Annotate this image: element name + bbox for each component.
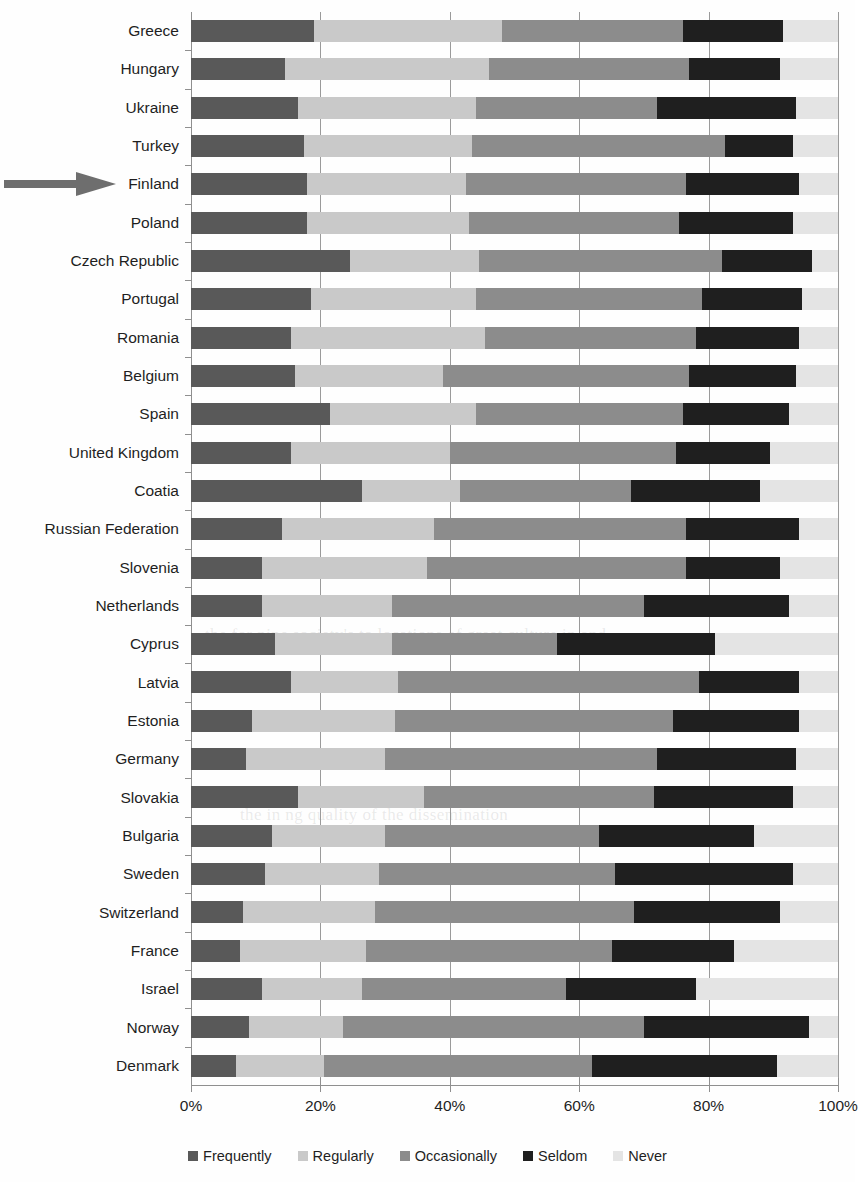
bar-segment-never [715,633,838,655]
bar-segment-regularly [240,940,366,962]
bar-segment-frequently [191,786,298,808]
stacked-bar [191,557,838,579]
bar-segment-never [770,442,838,464]
legend-item[interactable]: Never [613,1148,667,1164]
bar-segment-occasionally [343,1016,644,1038]
bar-segment-seldom [683,403,790,425]
x-axis-tick [579,1078,580,1092]
x-axis-tick-label: 60% [564,1097,595,1115]
stacked-bar [191,940,838,962]
stacked-bar [191,20,838,42]
bar-row [191,817,838,855]
bar-segment-seldom [725,135,793,157]
bar-segment-seldom [683,20,783,42]
bar-segment-occasionally [466,173,686,195]
legend-item[interactable]: Seldom [523,1148,587,1164]
y-axis-tick [185,855,191,856]
y-axis-label: Poland [131,215,179,231]
bar-segment-occasionally [479,250,722,272]
x-axis-tick-label: 20% [305,1097,336,1115]
y-axis-label: Estonia [127,713,179,729]
bar-segment-regularly [307,212,469,234]
y-axis-tick [185,434,191,435]
bar-row [191,12,838,50]
stacked-bar [191,365,838,387]
bar-segment-occasionally [472,135,724,157]
bar-segment-frequently [191,518,282,540]
y-axis-label: Coatia [134,483,179,499]
y-axis-tick [185,280,191,281]
y-axis-label: United Kingdom [69,445,179,461]
y-axis-tick [185,89,191,90]
bar-segment-seldom [686,173,799,195]
bar-segment-regularly [236,1055,323,1077]
bar-segment-occasionally [385,748,657,770]
bar-segment-regularly [275,633,391,655]
legend-swatch-icon [523,1151,533,1161]
bar-segment-frequently [191,480,362,502]
legend-item[interactable]: Frequently [188,1148,272,1164]
bar-row [191,280,838,318]
bar-segment-occasionally [398,671,699,693]
bar-row [191,855,838,893]
bar-segment-frequently [191,288,311,310]
bar-segment-occasionally [392,595,644,617]
bar-segment-frequently [191,403,330,425]
bar-row [191,89,838,127]
y-axis-label: Israel [141,981,179,997]
bar-segment-never [799,710,838,732]
bar-segment-regularly [262,557,427,579]
bar-segment-seldom [657,748,796,770]
bar-segment-regularly [291,327,485,349]
bar-segment-never [793,786,838,808]
bar-segment-never [783,20,838,42]
bar-segment-frequently [191,557,262,579]
y-axis-tick [185,549,191,550]
bar-row [191,510,838,548]
bar-segment-seldom [699,671,799,693]
bar-segment-never [799,173,838,195]
bar-segment-frequently [191,365,295,387]
y-axis-label: Sweden [123,866,179,882]
y-axis-tick [185,1047,191,1048]
stacked-bar [191,250,838,272]
bar-segment-regularly [291,442,450,464]
y-axis-tick [185,970,191,971]
y-axis-tick [185,395,191,396]
bar-row [191,1008,838,1046]
bar-segment-regularly [362,480,459,502]
bar-segment-regularly [246,748,385,770]
y-axis-tick [185,625,191,626]
stacked-bar [191,901,838,923]
bar-segment-occasionally [324,1055,593,1077]
bar-segment-seldom [722,250,813,272]
bar-segment-frequently [191,97,298,119]
bar-segment-regularly [265,863,378,885]
bar-segment-regularly [295,365,444,387]
legend-item[interactable]: Occasionally [400,1148,497,1164]
bar-segment-never [796,365,838,387]
x-axis-tick [320,1078,321,1092]
bar-row [191,165,838,203]
y-axis-label: Denmark [116,1058,179,1074]
bar-segment-never [799,518,838,540]
y-axis-label: France [131,943,179,959]
bar-segment-never [802,288,838,310]
stacked-bar [191,863,838,885]
stacked-bar [191,825,838,847]
bar-segment-seldom [686,518,799,540]
bar-segment-frequently [191,20,314,42]
stacked-bar [191,1055,838,1077]
chart-legend: FrequentlyRegularlyOccasionallySeldomNev… [0,1148,855,1164]
bar-row [191,50,838,88]
bar-segment-frequently [191,901,243,923]
bar-segment-never [812,250,838,272]
bar-segment-frequently [191,633,275,655]
legend-swatch-icon [188,1151,198,1161]
bar-segment-occasionally [489,58,690,80]
legend-swatch-icon [613,1151,623,1161]
bar-segment-seldom [557,633,716,655]
bar-segment-seldom [612,940,735,962]
y-axis-tick [185,778,191,779]
legend-item[interactable]: Regularly [298,1148,374,1164]
